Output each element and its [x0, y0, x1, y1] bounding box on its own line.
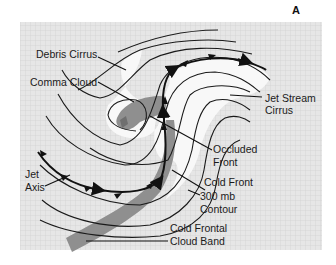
label-cold-front: Cold Front — [204, 176, 253, 188]
label-debris-cirrus: Debris Cirrus — [36, 48, 97, 60]
panel-letter: A — [292, 4, 300, 16]
diagram-canvas — [0, 0, 336, 265]
label-cold-frontal-cloud-band-1: Cold Frontal — [170, 222, 227, 234]
label-occluded-front-2: Front — [213, 156, 238, 168]
label-jet-stream-cirrus-1: Jet Stream — [265, 92, 316, 104]
label-300mb-contour-2: Contour — [200, 203, 237, 215]
cyclone-cloud-diagram: A Debris Cirrus Comma Cloud Jet Stream C… — [0, 0, 336, 265]
label-comma-cloud: Comma Cloud — [30, 76, 97, 88]
label-jet-stream-cirrus-2: Cirrus — [265, 104, 293, 116]
label-jet-axis-1: Jet — [25, 168, 39, 180]
label-cold-frontal-cloud-band-2: Cloud Band — [170, 235, 225, 247]
label-300mb-contour-1: 300 mb — [200, 190, 235, 202]
label-occluded-front-1: Occluded — [213, 143, 257, 155]
label-jet-axis-2: Axis — [25, 181, 45, 193]
